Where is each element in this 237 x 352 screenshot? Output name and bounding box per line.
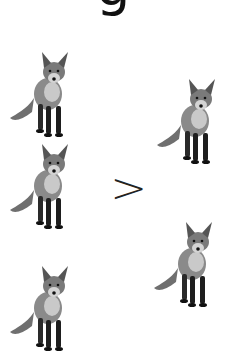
fox-icon: [152, 218, 222, 308]
fox-icon: [155, 75, 225, 165]
fox-icon: [8, 262, 78, 352]
fox-icon: [8, 48, 78, 138]
title-fragment: g: [96, 0, 130, 14]
fox-icon: [8, 140, 78, 230]
greater-than-symbol: >: [110, 168, 147, 208]
